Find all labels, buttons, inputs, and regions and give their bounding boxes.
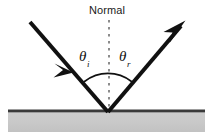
diagram-canvas	[0, 0, 214, 139]
incident-ray-line	[30, 22, 108, 112]
normal-label: Normal	[0, 4, 214, 17]
theta-incident-label: θi	[79, 49, 89, 70]
reflected-ray-arrowhead	[164, 21, 186, 44]
theta-reflected-symbol: θ	[119, 48, 126, 64]
surface-fill	[8, 113, 205, 132]
incident-ray	[30, 22, 108, 112]
reflection-diagram: Normal θi θr	[0, 0, 214, 139]
theta-reflected-subscript: r	[127, 59, 131, 69]
theta-incident-symbol: θ	[79, 48, 86, 64]
theta-reflected-label: θr	[119, 49, 130, 70]
